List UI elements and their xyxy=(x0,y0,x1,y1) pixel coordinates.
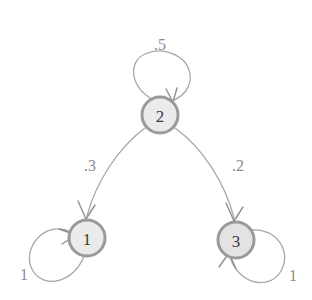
edge-weight-label-2-3: .2 xyxy=(232,157,244,174)
state-label-1: 1 xyxy=(83,230,92,249)
state-label-2: 2 xyxy=(156,107,165,126)
state-node-1[interactable]: 1 xyxy=(69,220,105,256)
edge-weight-label-1-1: 1 xyxy=(20,266,28,283)
self-loop-path-2 xyxy=(134,51,191,101)
transition-2-to-2 xyxy=(134,51,191,102)
state-label-3: 3 xyxy=(232,232,241,251)
markov-chain-diagram: 2 1 3 .5 .3 .2 1 1 xyxy=(0,0,312,300)
state-diagram-canvas: 2 1 3 .5 .3 .2 1 1 xyxy=(0,0,312,300)
edge-path-2-3 xyxy=(175,128,234,218)
edge-weight-label-2-1: .3 xyxy=(84,157,96,174)
state-node-3[interactable]: 3 xyxy=(218,222,254,258)
edge-weight-label-3-3: 1 xyxy=(289,267,297,284)
transition-2-to-1 xyxy=(78,128,145,219)
edge-weight-label-2-2: .5 xyxy=(154,36,166,53)
state-node-2[interactable]: 2 xyxy=(142,97,178,133)
transition-2-to-3 xyxy=(175,128,243,221)
